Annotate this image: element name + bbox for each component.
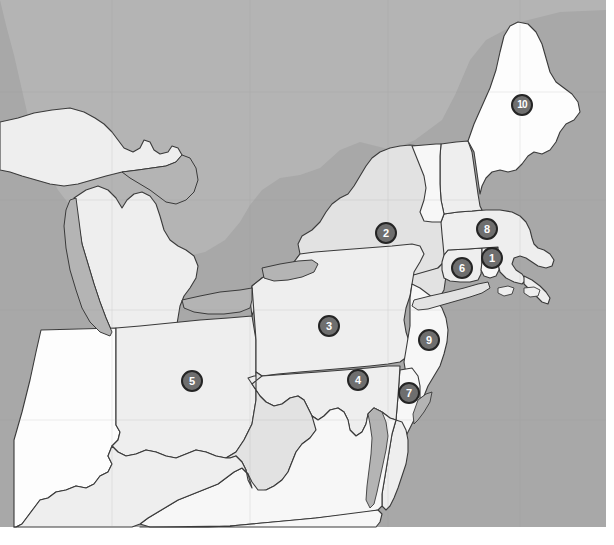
island-marthas-vineyard [498, 286, 514, 296]
reference-map [0, 0, 614, 545]
map-marker-7[interactable]: 7 [398, 382, 420, 404]
map-marker-10[interactable]: 10 [511, 94, 533, 116]
bottom-white-margin [0, 527, 614, 545]
map-marker-8[interactable]: 8 [476, 218, 498, 240]
map-marker-3[interactable]: 3 [318, 315, 340, 337]
right-white-margin [606, 0, 614, 545]
map-marker-2[interactable]: 2 [375, 222, 397, 244]
map-marker-5[interactable]: 5 [181, 370, 203, 392]
map-marker-4[interactable]: 4 [347, 369, 369, 391]
map-marker-6[interactable]: 6 [451, 257, 473, 279]
map-container: 1 2 3 4 5 6 7 8 9 10 [0, 0, 614, 545]
map-marker-9[interactable]: 9 [418, 329, 440, 351]
map-marker-1[interactable]: 1 [481, 247, 503, 269]
